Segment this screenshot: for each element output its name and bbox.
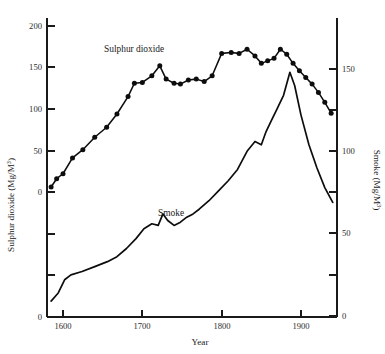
sulphur-dioxide-series-label: Sulphur dioxide	[104, 44, 164, 54]
x-ticklabel-1700: 1700	[133, 321, 150, 331]
chart-figure: 200 150 100 50 0 0 150 100 50 0	[0, 0, 385, 354]
data-point	[265, 58, 270, 63]
x-ticklabel-1600: 1600	[54, 321, 71, 331]
data-point	[252, 53, 257, 58]
right-ticklabel-0: 0	[342, 311, 346, 321]
data-point	[54, 176, 59, 181]
data-point	[284, 52, 289, 57]
data-point	[149, 73, 154, 78]
right-axis-ticks	[329, 69, 337, 316]
data-point	[229, 50, 234, 55]
sulphur-dioxide-markers	[49, 47, 334, 190]
data-point	[194, 77, 199, 82]
data-point	[140, 80, 145, 85]
data-point	[322, 100, 327, 105]
data-point	[186, 77, 191, 82]
data-point	[219, 51, 224, 56]
x-axis-ticklabels: 1600 1700 1800 1900	[54, 321, 309, 331]
left-ticklabel-bottom-0: 0	[38, 312, 42, 322]
data-point	[237, 51, 242, 56]
y-left-axis-title-main: Sulphur dioxide (Mg/M	[6, 164, 16, 252]
x-axis-ticks	[63, 310, 301, 317]
left-axis-ticklabels: 200 150 100 50 0 0	[29, 21, 42, 322]
left-ticklabel-150: 150	[29, 62, 42, 72]
data-point	[132, 81, 137, 86]
y-right-axis-title: Smoke (Mg/M3)	[372, 150, 383, 211]
left-ticklabel-0: 0	[38, 187, 42, 197]
data-point	[259, 61, 264, 66]
left-ticklabel-50: 50	[33, 146, 42, 156]
data-point	[310, 82, 315, 87]
data-point	[92, 135, 97, 140]
right-axis-ticklabels: 150 100 50 0	[342, 64, 355, 321]
data-point	[202, 79, 207, 84]
data-point	[114, 111, 119, 116]
data-point	[61, 171, 66, 176]
data-point	[291, 61, 296, 66]
data-point	[303, 75, 308, 80]
data-point	[126, 94, 131, 99]
left-ticklabel-200: 200	[29, 21, 42, 31]
right-ticklabel-150: 150	[342, 64, 355, 74]
right-ticklabel-100: 100	[342, 146, 355, 156]
x-ticklabel-1800: 1800	[213, 321, 230, 331]
data-point	[80, 147, 85, 152]
data-point	[70, 155, 75, 160]
y-right-axis-title-main: Smoke (Mg/M	[372, 150, 382, 204]
sulphur-dioxide-line	[51, 49, 331, 187]
data-point	[316, 90, 321, 95]
right-ticklabel-50: 50	[342, 228, 351, 238]
smoke-series-label: Smoke	[158, 208, 184, 218]
left-ticklabel-100: 100	[29, 104, 42, 114]
air-pollution-line-chart: 200 150 100 50 0 0 150 100 50 0	[0, 0, 385, 354]
data-point	[297, 68, 302, 73]
data-point	[157, 63, 162, 68]
x-ticklabel-1900: 1900	[292, 321, 309, 331]
data-point	[272, 56, 277, 61]
y-right-axis-title-tail: )	[372, 207, 382, 210]
data-point	[278, 47, 283, 52]
data-point	[164, 77, 169, 82]
data-point	[104, 125, 109, 130]
left-axis-ticks	[47, 26, 55, 317]
data-point	[210, 73, 215, 78]
x-axis-title: Year	[192, 337, 209, 347]
data-point	[245, 47, 250, 52]
data-point	[49, 185, 54, 190]
y-left-axis-title: Sulphur dioxide (Mg/M3)	[5, 158, 16, 252]
data-point	[172, 81, 177, 86]
y-left-axis-title-tail: )	[6, 158, 16, 161]
data-point	[178, 82, 183, 87]
data-point	[329, 111, 334, 116]
smoke-line	[51, 72, 333, 301]
